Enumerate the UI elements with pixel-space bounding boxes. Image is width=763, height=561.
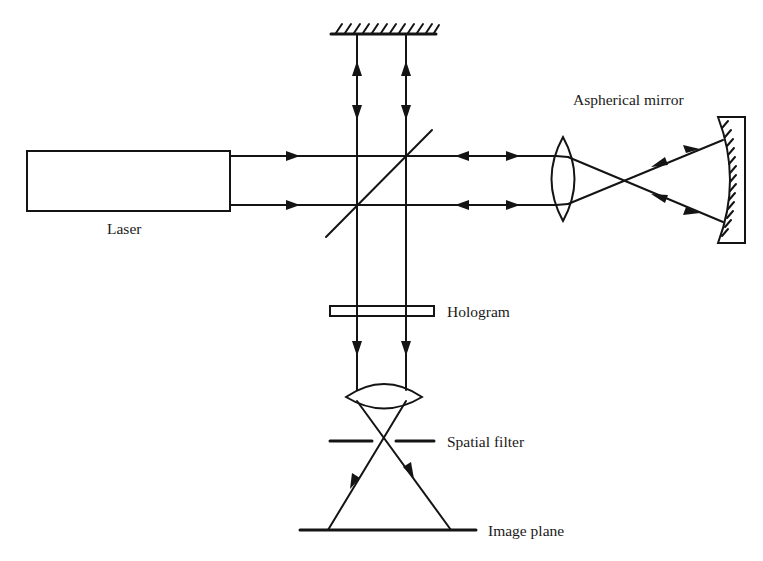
spatial-filter-label: Spatial filter [447,433,525,450]
arrow-right-icon [286,151,300,161]
arrow-right-icon [286,200,300,210]
arrow-right-icon [506,200,520,210]
arrow-up-icon [352,61,362,76]
aspherical-mirror [718,117,745,243]
hologram-label: Hologram [447,303,510,320]
image-plane-label: Image plane [488,522,564,539]
lens-mirror-rays [556,140,723,222]
arrow-down-icon [352,105,362,120]
arrow-right-icon [683,145,700,153]
arrow-down-icon [401,105,411,120]
horizontal-beams [230,151,556,210]
arrow-down-icon [352,341,362,356]
arrow-down-icon [401,341,411,356]
hologram [330,306,434,316]
arrow-left-icon [455,200,469,210]
arrow-left-icon [651,157,668,167]
arrow-down-icon [403,462,414,479]
vertical-beams [352,34,411,390]
plane-mirror [331,24,439,34]
lens-1 [552,137,575,221]
beam-splitter [326,130,432,237]
optical-setup-diagram: Laser [0,0,763,561]
arrow-right-icon [506,151,520,161]
aspherical-mirror-label: Aspherical mirror [573,91,684,108]
arrow-left-icon [651,194,668,203]
imaging-rays [328,401,451,530]
arrow-up-icon [401,61,411,76]
laser [27,151,230,211]
arrow-left-icon [455,151,469,161]
laser-label: Laser [107,220,142,237]
